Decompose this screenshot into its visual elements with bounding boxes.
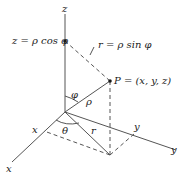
theta-label: θ [62, 125, 68, 136]
x-tick-label: x [32, 124, 38, 135]
r-equation-label: r = ρ sin φ [98, 39, 152, 50]
x-axis [12, 112, 65, 162]
z-axis-label: z [61, 3, 68, 14]
foot-to-x-dash [44, 131, 110, 155]
rho-label: ρ [85, 96, 92, 107]
spherical-coordinates-diagram: z z = ρ cos φ r = ρ sin φ P = (x, y, z) … [0, 0, 182, 176]
foot-to-y-dash [110, 134, 134, 155]
y-tick-label: y [133, 121, 140, 132]
x-axis-label: x [6, 163, 12, 174]
phi-label: φ [71, 89, 78, 100]
p-point-dot [108, 79, 112, 83]
r-eq-leader [90, 47, 94, 55]
r-label: r [91, 125, 97, 136]
point-label: P = (x, y, z) [113, 75, 171, 86]
y-axis-label: y [170, 144, 177, 155]
diagram-canvas: z z = ρ cos φ r = ρ sin φ P = (x, y, z) … [0, 0, 182, 176]
z-equation-label: z = ρ cos φ [11, 35, 68, 46]
r-segment [65, 112, 110, 155]
